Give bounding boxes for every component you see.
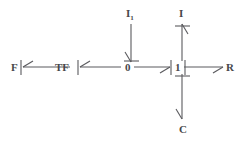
junction-label-one: 1 [175,62,181,73]
bond-zero-to-tf [78,60,121,75]
element-label-transformer: TF [55,62,69,73]
bond-zero-to-one [134,60,171,75]
bond-one-to-c [175,74,190,119]
bond-one-to-i [175,24,190,61]
element-label-inertia-left: I1 [126,8,134,22]
bond-il-to-zero [124,24,139,62]
half-arrow-tf-f [23,61,33,67]
half-arrow-zero-tf [80,61,90,67]
element-label-inertia-right: I [179,8,183,19]
bond-graph-diagram: F TF 0 1 R I1 I C [0,0,248,143]
half-arrow-zero-one [160,67,170,73]
half-arrow-one-r [213,67,223,73]
element-label-capacitor: C [179,124,187,135]
junction-label-zero: 0 [125,62,131,73]
half-arrow-one-c [176,109,182,119]
element-label-effort-source: F [11,62,18,73]
bond-one-to-r [184,60,223,75]
element-label-inertia-left-subscript: 1 [130,14,134,22]
bond-graph-canvas [0,0,248,143]
element-label-resistor: R [226,62,234,73]
